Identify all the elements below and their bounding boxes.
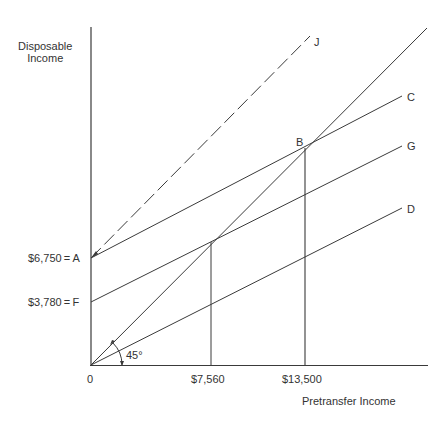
tick-label-A: $6,750 = A: [28, 252, 80, 264]
line-D: [91, 208, 402, 365]
tick-label-F: $3,780 = F: [28, 296, 79, 308]
line-G: [91, 146, 402, 302]
x-axis-label: Pretransfer Income: [302, 395, 396, 407]
line-label-G: G: [407, 140, 416, 152]
line-45-degree: [91, 28, 427, 365]
tick-label-13500: $13,500: [282, 373, 322, 385]
tick-label-7560: $7,560: [191, 373, 225, 385]
y-axis-label-line2: Income: [18, 52, 72, 64]
line-label-J: J: [314, 36, 320, 48]
line-C: [91, 96, 402, 258]
line-label-C: C: [407, 91, 415, 103]
angle-label: 45°: [126, 349, 143, 361]
y-axis-label: Disposable Income: [18, 40, 72, 64]
line-label-D: D: [407, 203, 415, 215]
line-J-dashed: [91, 36, 310, 258]
y-axis-label-line1: Disposable: [18, 40, 72, 52]
tick-label-origin: 0: [87, 373, 93, 385]
point-label-B: B: [296, 136, 303, 148]
